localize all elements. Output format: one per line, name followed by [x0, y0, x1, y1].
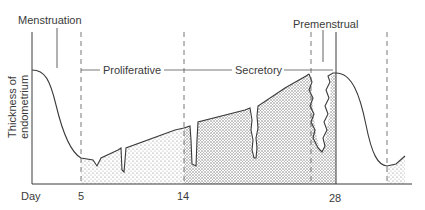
tick-day-5: 5: [78, 190, 84, 202]
proliferative-label: Proliferative: [103, 64, 161, 76]
tick-day-14: 14: [177, 190, 189, 202]
endometrium-diagram: [0, 0, 425, 210]
secretory-label: Secretory: [235, 64, 282, 76]
x-axis-label: Day: [21, 190, 41, 202]
menstruation-label: Menstruation: [18, 14, 82, 26]
premenstrual-label: Premenstrual: [293, 18, 358, 30]
tick-day-28: 28: [329, 192, 341, 204]
y-axis-label: Thickness of endometrium: [6, 47, 30, 167]
